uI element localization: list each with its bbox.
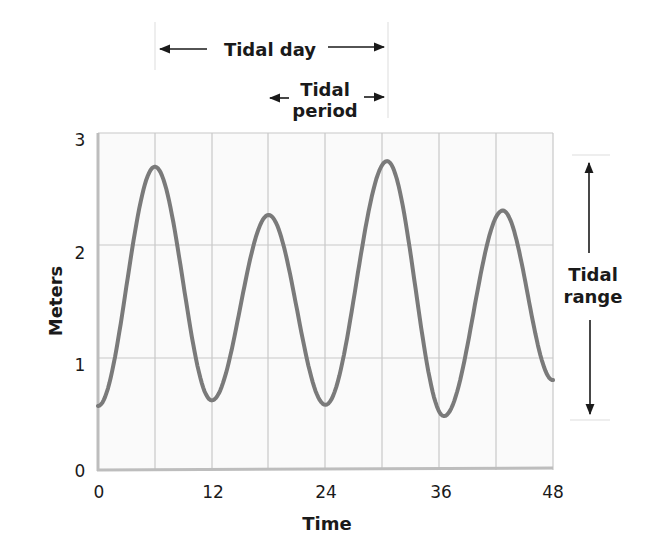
x-axis: [97, 468, 553, 470]
y-axis-label: Meters: [45, 266, 66, 337]
x-tick-48: 48: [542, 482, 564, 502]
y-tick-1: 1: [75, 355, 86, 375]
tidal-period-label-line1: Tidal: [300, 79, 350, 100]
x-tick-12: 12: [202, 482, 224, 502]
y-tick-2: 2: [75, 243, 86, 263]
x-tick-0: 0: [94, 482, 105, 502]
tidal-range-label-line1: Tidal: [568, 264, 618, 285]
tide-chart: 3 2 1 0 0 12 24 36 48 Time Meters Tidal …: [0, 0, 659, 558]
x-axis-label: Time: [302, 513, 351, 534]
tidal-range-label-line2: range: [564, 286, 623, 307]
x-tick-36: 36: [430, 482, 452, 502]
y-tick-3: 3: [75, 130, 86, 150]
tidal-period-label-line2: period: [292, 100, 357, 121]
x-tick-24: 24: [315, 482, 337, 502]
y-tick-0: 0: [75, 461, 86, 481]
tidal-day-label: Tidal day: [224, 39, 316, 60]
